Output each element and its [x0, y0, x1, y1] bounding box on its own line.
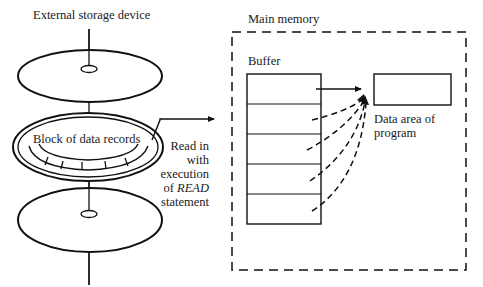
read-keyword: READ [177, 181, 209, 195]
buffer-label: Buffer [248, 54, 280, 68]
disk-middle [13, 113, 163, 181]
disk-hub-icon [81, 211, 97, 218]
disk-bottom [18, 181, 162, 285]
main-memory-title: Main memory [248, 12, 319, 26]
transfer-line-2: with [167, 153, 209, 167]
transfer-line-1: Read in [167, 139, 209, 153]
data-area-label-1: Data area of [374, 112, 435, 126]
read-arrow [152, 119, 214, 140]
transfer-line-5: statement [153, 195, 209, 209]
transfer-line-3: execution [153, 167, 209, 181]
disk-top [18, 29, 162, 102]
disk-hub-icon [81, 66, 97, 73]
data-area-box [374, 74, 451, 105]
storage-title: External storage device [33, 8, 150, 22]
transfer-line-4: of READ [153, 181, 209, 195]
transfer-line-4-prefix: of [164, 181, 178, 195]
convergence-arrowheads [357, 94, 369, 105]
data-area-label-2: program [374, 126, 416, 140]
block-label: Block of data records [33, 132, 140, 146]
